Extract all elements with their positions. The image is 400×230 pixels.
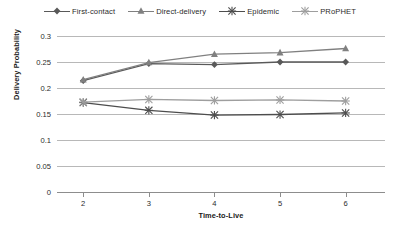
legend-marker-cross-icon <box>219 6 245 16</box>
x-tick-label: 3 <box>134 199 164 208</box>
legend-item-epidemic[interactable]: Epidemic <box>219 6 279 16</box>
data-point <box>342 109 350 117</box>
x-axis-line <box>57 192 385 193</box>
chart-container: First-contactDirect-deliveryEpidemicPRoP… <box>0 0 400 230</box>
legend-label: First-contact <box>72 7 115 16</box>
legend-marker-cross-icon <box>292 6 318 16</box>
x-tick-mark <box>280 193 281 197</box>
data-point <box>145 106 153 114</box>
legend-label: Epidemic <box>247 7 279 16</box>
data-point <box>79 98 87 106</box>
y-tick-label: 0.15 <box>5 110 51 119</box>
chart-legend: First-contactDirect-deliveryEpidemicPRoP… <box>0 6 400 16</box>
legend-item-direct-delivery[interactable]: Direct-delivery <box>128 6 206 16</box>
y-tick-label: 0.1 <box>5 136 51 145</box>
y-tick-label: 0.3 <box>5 32 51 41</box>
data-point <box>276 110 284 118</box>
legend-marker-triangle-icon <box>128 6 154 16</box>
x-tick-label: 5 <box>265 199 295 208</box>
x-tick-label: 6 <box>331 199 361 208</box>
series-prophet <box>79 95 350 106</box>
x-tick-mark <box>149 193 150 197</box>
legend-marker-diamond-icon <box>44 6 70 16</box>
data-point <box>342 59 349 66</box>
data-point <box>210 111 218 119</box>
x-tick-mark <box>346 193 347 197</box>
series-layer <box>57 36 385 192</box>
data-point <box>211 61 218 68</box>
y-tick-label: 0.05 <box>5 162 51 171</box>
x-tick-label: 2 <box>68 199 98 208</box>
legend-label: PRoPHET <box>320 7 356 16</box>
x-tick-mark <box>214 193 215 197</box>
data-point <box>145 95 153 103</box>
legend-label: Direct-delivery <box>156 7 206 16</box>
data-point <box>342 97 350 105</box>
y-tick-label: 0.2 <box>5 84 51 93</box>
data-point <box>276 96 284 104</box>
legend-item-prophet[interactable]: PRoPHET <box>292 6 356 16</box>
x-axis-label: Time-to-Live <box>57 211 385 220</box>
data-point <box>342 45 349 52</box>
data-point <box>277 59 284 66</box>
series-first-contact <box>80 59 349 85</box>
plot-area <box>57 36 385 192</box>
x-tick-label: 4 <box>199 199 229 208</box>
x-tick-mark <box>83 193 84 197</box>
y-tick-label: 0 <box>5 188 51 197</box>
y-tick-label: 0.25 <box>5 58 51 67</box>
data-point <box>210 96 218 104</box>
y-axis-tick-labels: 00.050.10.150.20.250.3 <box>5 36 51 192</box>
legend-item-first-contact[interactable]: First-contact <box>44 6 115 16</box>
